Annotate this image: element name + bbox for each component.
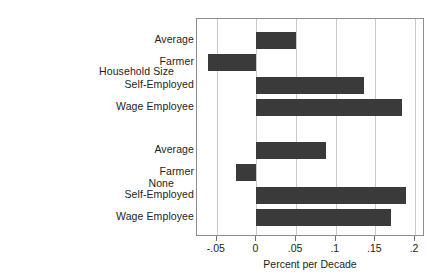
bar bbox=[256, 77, 363, 94]
plot-inner bbox=[197, 19, 423, 235]
x-axis-tick-label: 0 bbox=[253, 242, 259, 254]
bar bbox=[208, 54, 256, 71]
x-axis-title: Percent per Decade bbox=[196, 258, 424, 270]
x-axis-tick bbox=[335, 236, 336, 241]
category-label: Average bbox=[154, 143, 194, 155]
bar bbox=[256, 99, 401, 116]
category-label: Wage Employee bbox=[116, 210, 194, 222]
category-label: Farmer bbox=[160, 165, 194, 177]
chart-title bbox=[196, 0, 424, 6]
bar bbox=[256, 187, 405, 204]
bar bbox=[256, 142, 326, 159]
gridline bbox=[217, 19, 218, 235]
category-label: Self-Employed bbox=[124, 188, 194, 200]
category-label: Wage Employee bbox=[116, 100, 194, 112]
x-axis-tick bbox=[255, 236, 256, 241]
x-axis-tick bbox=[374, 236, 375, 241]
category-label: Average bbox=[154, 33, 194, 45]
x-axis-tick-label: .1 bbox=[330, 242, 339, 254]
category-label: Farmer bbox=[160, 55, 194, 67]
x-axis-tick bbox=[414, 236, 415, 241]
x-axis-tick bbox=[295, 236, 296, 241]
bar bbox=[256, 32, 296, 49]
x-axis-tick-label: .05 bbox=[288, 242, 303, 254]
category-label: Self-Employed bbox=[124, 78, 194, 90]
bar-chart: Household Size None Average Farmer Self-… bbox=[0, 0, 434, 279]
x-axis-tick-label: -.05 bbox=[207, 242, 225, 254]
x-axis-tick-label: .2 bbox=[410, 242, 419, 254]
bar bbox=[236, 164, 257, 181]
bar bbox=[256, 209, 391, 226]
plot-area bbox=[196, 18, 424, 236]
x-axis-tick-label: .15 bbox=[367, 242, 382, 254]
x-axis-tick bbox=[216, 236, 217, 241]
gridline bbox=[415, 19, 416, 235]
